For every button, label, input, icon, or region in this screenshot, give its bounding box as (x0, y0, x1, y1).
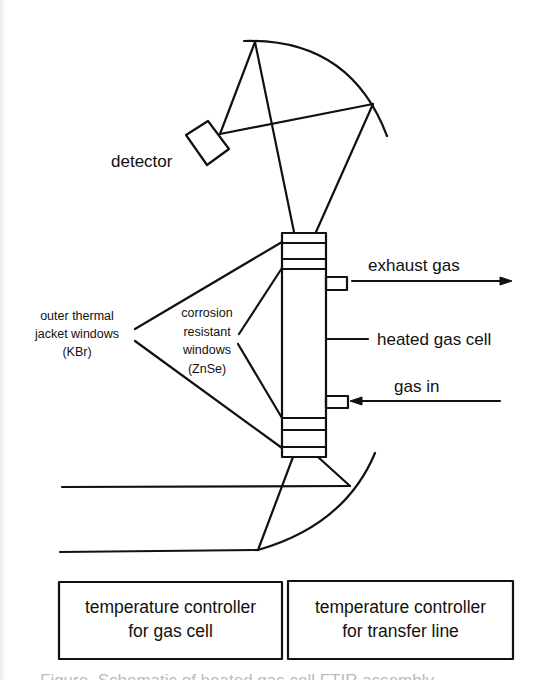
heated-gas-cell (282, 233, 348, 457)
controller-transfer-line-line2: for transfer line (342, 621, 459, 641)
beam-right-to-cell (316, 104, 373, 232)
beam-cell-to-lower (258, 457, 293, 550)
inner-windows-label-line2: resistant (183, 325, 231, 339)
beam-right-to-detector (220, 104, 373, 134)
inner-window-leader-bottom (238, 344, 282, 418)
outer-windows-label-line2: jacket windows (34, 327, 119, 341)
gas-in-port (326, 396, 348, 408)
controller-transfer-line-line1: temperature controller (315, 597, 486, 617)
arrow-left-icon (350, 397, 362, 405)
heated-gas-cell-callout: heated gas cell (327, 330, 491, 349)
figure-caption-text: Figure. Schematic of heated gas cell FTI… (0, 674, 546, 680)
exhaust-port (326, 277, 347, 290)
beam-lower-horizontal (60, 550, 258, 552)
bottom-mirror (60, 453, 375, 552)
detector: detector (111, 121, 229, 171)
temperature-controller-gas-cell: temperature controller for gas cell (59, 582, 282, 659)
cell-body (282, 233, 326, 457)
exhaust-gas-label: exhaust gas (368, 256, 460, 275)
inner-windows-label-line4: (ZnSe) (188, 362, 226, 376)
detector-label: detector (111, 152, 173, 171)
outer-windows-callout: outer thermal jacket windows (KBr) (34, 242, 282, 448)
controller-gas-cell-line2: for gas cell (128, 621, 213, 641)
figure-caption-cutoff: Figure. Schematic of heated gas cell FTI… (0, 674, 546, 680)
outer-windows-label-line1: outer thermal (40, 309, 114, 323)
gas-cell-diagram: detector exhaust gas heated gas cell gas… (0, 0, 546, 680)
outer-window-leader-bottom (135, 341, 282, 448)
beam-mirror-to-cell-left (255, 42, 294, 232)
controller-gas-cell-line1: temperature controller (85, 597, 256, 617)
exhaust-gas-arrow: exhaust gas (352, 256, 512, 285)
inner-windows-label-line1: corrosion (181, 306, 232, 320)
gas-in-arrow: gas in (350, 377, 500, 405)
controller-box-transfer-line (288, 581, 513, 659)
temperature-controller-transfer-line: temperature controller for transfer line (288, 581, 513, 659)
beam-upper-horizontal (62, 486, 350, 487)
inner-window-leader-top (239, 268, 282, 334)
heated-gas-cell-label: heated gas cell (377, 330, 491, 349)
arrow-right-icon (500, 277, 512, 285)
top-beam-paths (220, 42, 373, 232)
gas-in-label: gas in (394, 377, 439, 396)
inner-windows-label-line3: windows (182, 343, 231, 357)
beam-mirror-to-detector (220, 42, 255, 134)
inner-windows-callout: corrosion resistant windows (ZnSe) (181, 268, 282, 418)
beam-cell-to-upper (318, 457, 350, 486)
outer-windows-label-line3: (KBr) (62, 345, 91, 359)
